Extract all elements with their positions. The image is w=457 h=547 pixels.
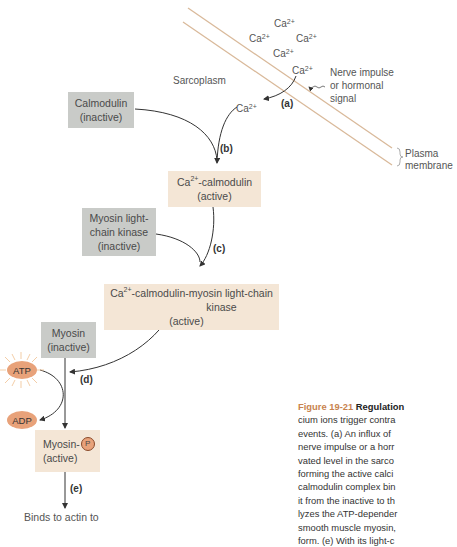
figure-caption: Figure 19-21 Regulation cium ions trigge… — [298, 400, 457, 547]
adp-molecule: ADP — [7, 411, 37, 429]
sarcoplasm-label: Sarcoplasm — [173, 75, 226, 86]
ca-ion: Ca2+ — [273, 48, 294, 59]
step-e-label: (e) — [70, 483, 82, 494]
phosphate-icon: P — [81, 437, 95, 451]
step-d-label: (d) — [80, 374, 93, 385]
calmodulin-inactive-node: Calmodulin (inactive) — [68, 92, 134, 128]
signal-label: Nerve impulse or hormonal signal — [330, 66, 394, 105]
myosin-active-node: Myosin- P (active) — [35, 430, 100, 472]
ca-ion: Ca2+ — [274, 18, 295, 29]
figure-number: Figure 19-21 — [298, 401, 353, 412]
plasma-membrane-label: Plasma membrane — [405, 148, 453, 172]
figure-title: Regulation — [356, 401, 404, 412]
step-b-label: (b) — [220, 143, 233, 154]
myosin-inactive-node: Myosin (inactive) — [41, 322, 96, 358]
ca-ion: Ca2+ — [249, 33, 270, 44]
ca-ion: Ca2+ — [296, 33, 317, 44]
ca-calmodulin-active-node: Ca2+-calmodulin (active) — [168, 171, 261, 207]
atp-molecule: ATP — [7, 361, 37, 379]
ca-ion-cytosolic: Ca2+ — [236, 103, 257, 114]
step-a-label: (a) — [281, 98, 293, 109]
step-c-label: (c) — [213, 243, 225, 254]
mlck-inactive-node: Myosin light- chain kinase (inactive) — [82, 208, 156, 256]
ca-calmodulin-mlck-active-node: Ca2+-calmodulin-myosin light-chain kinas… — [104, 284, 279, 330]
ca-ion: Ca2+ — [292, 65, 313, 76]
outcome-label: Binds to actin to — [24, 511, 99, 523]
